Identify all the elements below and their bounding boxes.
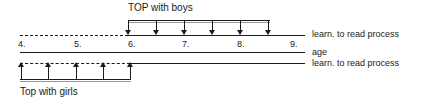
- upper-axis-dashed-segment: [20, 35, 128, 36]
- girls-arrow-head-4-up-arrow-icon: [100, 62, 106, 67]
- diagram-canvas: TOP with boys learn. to read process 4. …: [0, 0, 422, 105]
- girls-arrow-shaft-1: [21, 65, 22, 79]
- girls-bracket-label: Top with girls: [20, 86, 78, 97]
- boys-bracket-line: [128, 20, 270, 21]
- girls-bracket-line: [20, 79, 131, 80]
- girls-arrow-shaft-2: [48, 65, 49, 79]
- lower-axis-solid-segment: [130, 63, 305, 64]
- tick-label-4: 4.: [18, 39, 26, 50]
- age-axis-right-label: age: [312, 47, 327, 58]
- upper-axis-solid-segment: [128, 35, 305, 36]
- tick-label-9: 9.: [290, 39, 298, 50]
- tick-label-6: 6.: [128, 39, 136, 50]
- girls-arrow-head-2-up-arrow-icon: [45, 62, 51, 67]
- girls-arrow-shaft-3: [76, 65, 77, 79]
- boys-bracket-line-shadow: [128, 22, 270, 23]
- girls-arrow-head-5-up-arrow-icon: [127, 62, 133, 67]
- girls-arrow-shaft-4: [103, 65, 104, 79]
- girls-arrow-head-3-up-arrow-icon: [73, 62, 79, 67]
- girls-arrow-head-1-up-arrow-icon: [18, 62, 24, 67]
- upper-axis-right-label: learn. to read process: [312, 29, 399, 40]
- tick-label-7: 7.: [182, 39, 190, 50]
- girls-arrow-shaft-5: [130, 65, 131, 79]
- lower-axis-right-label: learn. to read process: [312, 58, 399, 69]
- girls-bracket-line-shadow: [20, 81, 131, 82]
- tick-label-5: 5.: [74, 39, 82, 50]
- tick-label-8: 8.: [237, 39, 245, 50]
- age-axis-line: [20, 52, 305, 53]
- boys-bracket-label: TOP with boys: [128, 2, 193, 13]
